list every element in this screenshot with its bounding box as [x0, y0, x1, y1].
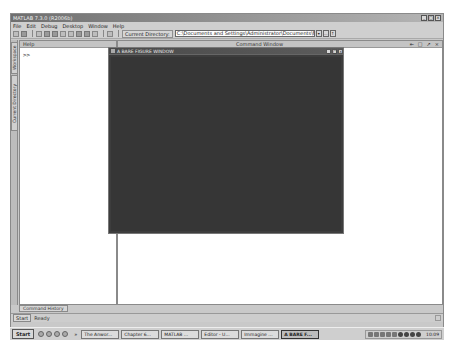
copy-icon[interactable]: [44, 31, 50, 37]
matlab-figure-icon: [111, 49, 115, 53]
figure-minimize-button[interactable]: _: [326, 49, 331, 54]
taskbar-item[interactable]: MATLAB ...: [161, 330, 199, 339]
tray-network-icon[interactable]: [368, 332, 373, 337]
maximize-panel-icon[interactable]: □: [418, 41, 423, 48]
left-dock-tabs: Workspace Current Directory: [11, 40, 18, 305]
dock-icon[interactable]: ⇤: [410, 41, 414, 48]
close-button[interactable]: ×: [435, 15, 441, 21]
desktop: MATLAB 7.3.0 (R2006b) _ □ × File Edit De…: [0, 0, 451, 348]
figure-title: A BARE FIGURE WINDOW: [117, 49, 174, 54]
current-directory-label: Current Directory:: [122, 30, 173, 38]
quicklaunch-chevron[interactable]: »: [74, 331, 77, 337]
app-titlebar[interactable]: MATLAB 7.3.0 (R2006b) _ □ ×: [11, 14, 443, 22]
toolbar: Current Directory: C:\Documents and Sett…: [11, 29, 443, 39]
menu-window[interactable]: Window: [88, 23, 108, 29]
status-text: Ready: [34, 315, 50, 321]
current-directory-dropdown[interactable]: ▾: [316, 30, 322, 37]
tray-app-icon[interactable]: [386, 332, 391, 337]
figure-window[interactable]: A BARE FIGURE WINDOW _ □ ×: [108, 47, 344, 234]
quicklaunch-media-icon[interactable]: [62, 331, 68, 337]
open-icon[interactable]: [21, 31, 27, 37]
taskbar-item-active[interactable]: A BARE F...: [281, 330, 319, 339]
menu-edit[interactable]: Edit: [26, 23, 36, 29]
clock[interactable]: 10:09: [426, 332, 439, 337]
redo-icon[interactable]: [68, 31, 74, 37]
tab-workspace[interactable]: Workspace: [11, 42, 18, 74]
help-panel-header: Help: [20, 41, 116, 48]
figure-close-button[interactable]: ×: [338, 49, 343, 54]
statusbar: Start Ready: [11, 313, 443, 322]
close-panel-icon[interactable]: ×: [435, 41, 439, 48]
tray-app-icon[interactable]: [416, 332, 421, 337]
start-button[interactable]: Start: [12, 329, 34, 339]
figure-maximize-button[interactable]: □: [332, 49, 337, 54]
quicklaunch-browser-icon[interactable]: [54, 331, 60, 337]
maximize-button[interactable]: □: [428, 15, 434, 21]
profiler-icon[interactable]: [92, 31, 98, 37]
tray-app-icon[interactable]: [392, 332, 397, 337]
taskbar-item[interactable]: Immagine ...: [241, 330, 279, 339]
bottom-dock-tabs: Command History: [19, 305, 68, 312]
menu-debug[interactable]: Debug: [41, 23, 57, 29]
help-icon[interactable]: [107, 31, 113, 37]
paste-icon[interactable]: [52, 31, 58, 37]
guide-icon[interactable]: [84, 31, 90, 37]
quicklaunch-explorer-icon[interactable]: [46, 331, 52, 337]
command-prompt[interactable]: >>: [20, 48, 116, 58]
taskbar-item[interactable]: Chapter 6...: [121, 330, 159, 339]
figure-canvas[interactable]: [111, 57, 341, 231]
menu-file[interactable]: File: [13, 23, 21, 29]
undo-icon[interactable]: [60, 31, 66, 37]
simulink-icon[interactable]: [76, 31, 82, 37]
menu-desktop[interactable]: Desktop: [63, 23, 84, 29]
browse-folder-button[interactable]: ...: [323, 30, 329, 37]
up-folder-button[interactable]: ↑: [330, 30, 336, 37]
figure-titlebar[interactable]: A BARE FIGURE WINDOW _ □ ×: [109, 48, 343, 55]
new-file-icon[interactable]: [13, 31, 19, 37]
taskbar-item[interactable]: The Anwor...: [81, 330, 119, 339]
tray-app-icon[interactable]: [398, 332, 403, 337]
resize-grip[interactable]: [435, 315, 441, 321]
tray-volume-icon[interactable]: [374, 332, 379, 337]
minimize-button[interactable]: _: [421, 15, 427, 21]
tray-app-icon[interactable]: [404, 332, 409, 337]
matlab-start-button[interactable]: Start: [13, 314, 31, 322]
cut-icon[interactable]: [36, 31, 42, 37]
windows-taskbar: Start » The Anwor... Chapter 6... MATLAB…: [10, 327, 444, 340]
toolbar-divider: [118, 30, 119, 37]
system-tray: 10:09: [365, 330, 442, 339]
tab-current-directory[interactable]: Current Directory: [11, 75, 18, 131]
tab-command-history[interactable]: Command History: [19, 305, 68, 312]
menu-help[interactable]: Help: [113, 23, 124, 29]
app-title: MATLAB 7.3.0 (R2006b): [13, 15, 72, 21]
taskbar-item[interactable]: Editor - U...: [201, 330, 239, 339]
quicklaunch-desktop-icon[interactable]: [38, 331, 44, 337]
current-directory-input[interactable]: C:\Documents and Settings\Administrator\…: [175, 30, 315, 37]
undock-icon[interactable]: ↗: [427, 41, 431, 48]
help-panel: Help >>: [19, 40, 117, 305]
tray-app-icon[interactable]: [410, 332, 415, 337]
toolbar-divider: [32, 30, 33, 37]
menubar: File Edit Debug Desktop Window Help: [11, 22, 443, 29]
tray-app-icon[interactable]: [380, 332, 385, 337]
toolbar-divider: [103, 30, 104, 37]
